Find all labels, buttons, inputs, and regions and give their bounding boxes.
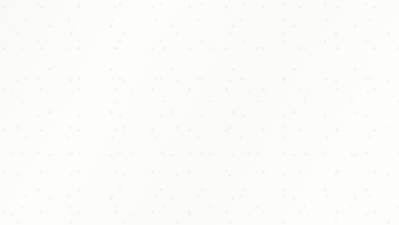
x-tick-80pct [320,191,321,195]
category-label-youtube-channel: YouTube channel [0,56,84,68]
category-label-axis: WebsiteYouTube channelBlogPodcastOnline … [0,0,84,225]
gridline-90pct [349,8,350,190]
category-label-blog: Blog [0,93,84,105]
bar-chart: WebsiteYouTube channelBlogPodcastOnline … [0,0,399,225]
bar-youtube-channel [88,50,219,76]
x-tick-100pct [378,191,379,195]
x-tick-10pct [117,191,118,195]
gridline-80pct [320,8,321,190]
bar-blog [88,86,175,112]
x-tick-40pct [204,191,205,195]
x-tick-0pct [88,191,89,195]
category-label-podcast: Podcast [0,129,84,141]
plot-area [88,8,378,190]
x-tick-50pct [233,191,234,195]
x-tick-90pct [349,191,350,195]
x-tick-60pct [262,191,263,195]
bar-podcast [88,122,133,148]
x-tick-30pct [175,191,176,195]
x-tick-20pct [146,191,147,195]
gridline-100pct [378,8,379,190]
x-tick-label-100pct: 100% [358,196,398,206]
gridline-60pct [262,8,263,190]
category-label-online-radio-show: Online radio show [0,159,84,183]
gridline-50pct [233,8,234,190]
bar-online-radio-show [88,159,121,185]
category-label-website: Website [0,20,84,32]
x-tick-70pct [291,191,292,195]
gridline-70pct [291,8,292,190]
bar-website [88,13,233,39]
